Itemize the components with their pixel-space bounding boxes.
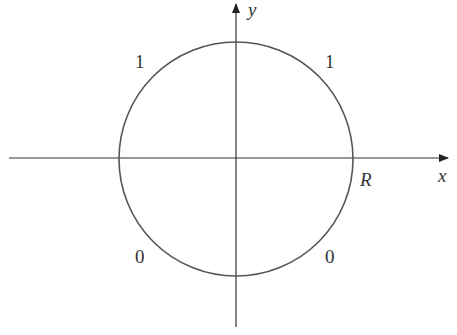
x-axis-label: x [437, 165, 447, 186]
value-lower-left: 0 [135, 246, 145, 267]
value-lower-right: 0 [325, 246, 335, 267]
value-upper-right: 1 [325, 51, 335, 72]
y-axis-label: y [246, 0, 257, 20]
circle-diagram: y x R 1 1 0 0 [0, 0, 457, 335]
value-upper-left: 1 [135, 51, 145, 72]
radius-label: R [359, 169, 372, 190]
